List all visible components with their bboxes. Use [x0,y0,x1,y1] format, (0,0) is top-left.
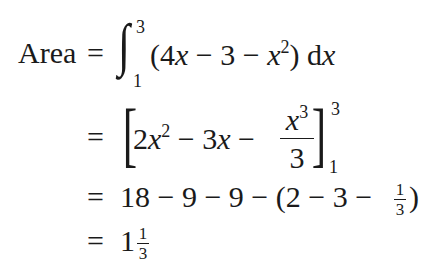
fraction-x-cubed-over-3: x3 3 [280,103,314,173]
equals-sign: = [87,182,104,212]
equals-sign: = [87,38,104,68]
result-fraction: 1 3 [137,225,149,262]
fraction-one-third: 1 3 [394,181,406,218]
equals-sign: = [87,122,104,152]
evaluation-upper-limit: 3 [331,100,340,118]
integral-upper-limit: 3 [136,18,145,36]
evaluated-expression: 18 − 9 − 9 − (2 − 3 − [120,182,372,212]
evaluation-lower-limit: 1 [329,158,338,176]
antiderivative: 2x2 − 3x − [133,122,255,154]
bracket-close: ] [312,98,326,170]
equals-sign: = [87,226,104,256]
integral-sign: ∫ [118,16,130,74]
integral-lower-limit: 1 [133,72,142,90]
area-label: Area [18,38,76,68]
integrand: (4x − 3 − x2) dx [150,38,335,70]
result-whole: 1 [120,226,135,256]
close-paren: ) [409,182,419,212]
